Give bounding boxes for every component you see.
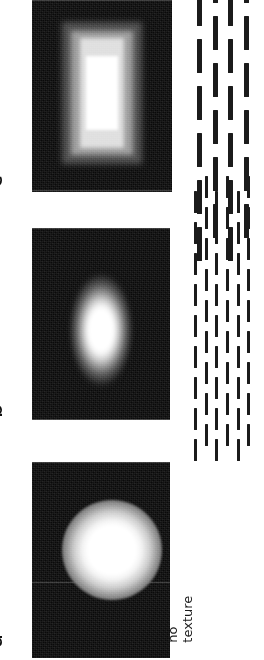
texture-dash	[197, 86, 202, 120]
texture-dash	[237, 377, 240, 399]
panel-a-condition-label: no texture	[165, 523, 196, 643]
texture-dash	[228, 180, 233, 214]
panel-c-stimulus-image	[32, 0, 172, 192]
texture-dash	[205, 269, 208, 291]
texture-dash	[194, 346, 197, 368]
texture-column	[237, 222, 240, 418]
texture-dash	[197, 0, 202, 26]
panel-a-top-edge	[32, 462, 170, 463]
texture-dash	[215, 377, 218, 399]
texture-dash	[194, 253, 197, 275]
texture-dash	[213, 16, 218, 50]
texture-dash	[237, 222, 240, 244]
texture-dash	[197, 180, 202, 214]
texture-dash	[205, 362, 208, 384]
texture-dash	[247, 300, 250, 322]
texture-dash	[226, 269, 229, 291]
texture-dash	[213, 0, 218, 3]
texture-column	[247, 222, 250, 418]
texture-dash	[215, 222, 218, 244]
texture-dash	[205, 300, 208, 322]
texture-dash	[247, 362, 250, 384]
panel-c-bottom-edge	[32, 190, 172, 191]
texture-dash	[228, 133, 233, 167]
texture-dash	[205, 393, 208, 415]
texture-dash	[247, 207, 250, 229]
texture-dash	[237, 315, 240, 337]
texture-column	[197, 0, 202, 182]
panel-b-stimulus-image	[32, 228, 170, 420]
panel-a-stimulus-image	[32, 462, 170, 658]
texture-dash	[237, 253, 240, 275]
texture-column	[244, 0, 249, 182]
texture-dash	[247, 176, 250, 198]
texture-dash	[215, 408, 218, 430]
texture-dash	[244, 110, 249, 144]
texture-dash	[228, 0, 233, 26]
texture-dash	[237, 439, 240, 461]
texture-column	[205, 222, 208, 418]
texture-dash	[197, 133, 202, 167]
texture-dash	[215, 315, 218, 337]
texture-dash	[244, 16, 249, 50]
texture-dash	[205, 424, 208, 446]
panel-b-top-edge	[32, 228, 170, 229]
texture-dash	[244, 0, 249, 3]
texture-dash	[226, 393, 229, 415]
texture-dash	[237, 408, 240, 430]
texture-dash	[215, 191, 218, 213]
texture-dash	[226, 424, 229, 446]
panel-a-luminance-blob	[62, 500, 162, 600]
texture-dash	[205, 331, 208, 353]
panel-c-letter: c	[0, 164, 6, 188]
texture-dash	[247, 269, 250, 291]
texture-dash	[194, 377, 197, 399]
texture-dash	[237, 346, 240, 368]
texture-dash	[205, 207, 208, 229]
texture-dash	[194, 408, 197, 430]
panel-a-letter: a	[0, 624, 6, 648]
panel-b-texture-swatch	[190, 222, 254, 418]
panel-c-texture-swatch	[192, 0, 254, 182]
texture-dash	[226, 207, 229, 229]
texture-dash	[194, 191, 197, 213]
texture-column	[194, 222, 197, 418]
texture-column	[226, 222, 229, 418]
condition-label-line-2: texture	[181, 523, 196, 643]
texture-dash	[197, 39, 202, 73]
texture-dash	[213, 63, 218, 97]
texture-dash	[226, 362, 229, 384]
texture-dash	[215, 253, 218, 275]
texture-dash	[213, 157, 218, 191]
texture-dash	[205, 238, 208, 260]
texture-dash	[247, 424, 250, 446]
panel-c-top-edge	[32, 0, 172, 1]
texture-dash	[226, 176, 229, 198]
texture-column	[213, 0, 218, 182]
texture-dash	[215, 346, 218, 368]
texture-dash	[228, 86, 233, 120]
texture-dash	[215, 439, 218, 461]
texture-dash	[194, 315, 197, 337]
texture-dash	[247, 393, 250, 415]
texture-dash	[237, 191, 240, 213]
panel-c-luminance-blob	[62, 22, 142, 164]
panel-b-luminance-blob	[64, 270, 138, 390]
texture-dash	[226, 300, 229, 322]
texture-column	[228, 0, 233, 182]
texture-dash	[213, 110, 218, 144]
texture-dash	[244, 63, 249, 97]
texture-dash	[194, 284, 197, 306]
panel-b-bottom-edge	[32, 419, 170, 420]
texture-dash	[226, 331, 229, 353]
texture-dash	[194, 222, 197, 244]
panel-b-letter: b	[0, 394, 6, 418]
texture-dash	[205, 176, 208, 198]
texture-dash	[247, 331, 250, 353]
condition-label-line-1: no	[165, 523, 180, 643]
texture-column	[215, 222, 218, 418]
texture-dash	[247, 238, 250, 260]
texture-dash	[237, 284, 240, 306]
texture-dash	[194, 439, 197, 461]
texture-dash	[226, 238, 229, 260]
